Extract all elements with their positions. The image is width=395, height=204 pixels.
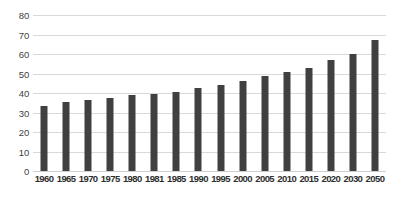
- bar: [217, 85, 224, 171]
- y-axis-tick-label: 70: [19, 29, 29, 40]
- bar: [107, 98, 114, 171]
- bar: [283, 72, 290, 171]
- x-axis-tick-label: 1990: [187, 173, 209, 184]
- bar-slot: [143, 15, 165, 171]
- bar: [239, 81, 246, 171]
- bar-slot: [298, 15, 320, 171]
- bar: [261, 76, 268, 171]
- bar-slot: [77, 15, 99, 171]
- y-axis-tick-label: 60: [19, 49, 29, 60]
- bar: [41, 106, 48, 171]
- bar-slot: [342, 15, 364, 171]
- bar-slot: [320, 15, 342, 171]
- x-axis-tick-label: 2000: [232, 173, 254, 184]
- x-axis-tick-label: 2050: [364, 173, 386, 184]
- x-axis-tick-label: 1980: [121, 173, 143, 184]
- gridline-0: [33, 171, 386, 172]
- bar: [305, 68, 312, 171]
- x-axis: 1960196519701975198019811985199019952000…: [33, 173, 386, 191]
- y-axis-tick-label: 80: [19, 10, 29, 21]
- bar: [371, 40, 378, 171]
- bar-slot: [254, 15, 276, 171]
- bar: [63, 102, 70, 171]
- x-axis-tick-label: 1995: [210, 173, 232, 184]
- bar-slot: [364, 15, 386, 171]
- bar: [173, 92, 180, 171]
- bar-slot: [55, 15, 77, 171]
- bar: [129, 95, 136, 171]
- bar-slot: [33, 15, 55, 171]
- x-axis-tick-label: 1970: [77, 173, 99, 184]
- x-axis-tick-label: 2010: [276, 173, 298, 184]
- x-axis-tick-label: 1975: [99, 173, 121, 184]
- y-axis-tick-label: 50: [19, 68, 29, 79]
- bar-chart: 01020304050607080 1960196519701975198019…: [0, 0, 395, 204]
- bar: [85, 100, 92, 171]
- y-axis-tick-label: 40: [19, 88, 29, 99]
- bar-slot: [121, 15, 143, 171]
- y-axis-tick-label: 10: [19, 146, 29, 157]
- x-axis-tick-label: 2005: [254, 173, 276, 184]
- bar: [327, 60, 334, 171]
- bar-slot: [99, 15, 121, 171]
- x-axis-tick-label: 2020: [320, 173, 342, 184]
- bar-slot: [210, 15, 232, 171]
- y-axis-tick-label: 0: [24, 166, 29, 177]
- x-axis-tick-label: 1960: [33, 173, 55, 184]
- plot-area: [33, 15, 386, 171]
- y-axis-tick-label: 20: [19, 127, 29, 138]
- y-axis: 01020304050607080: [0, 15, 29, 171]
- bar-slot: [276, 15, 298, 171]
- x-axis-tick-label: 1985: [165, 173, 187, 184]
- x-axis-tick-label: 2030: [342, 173, 364, 184]
- bar: [151, 94, 158, 171]
- x-axis-tick-label: 1981: [143, 173, 165, 184]
- y-axis-tick-label: 30: [19, 107, 29, 118]
- x-axis-tick-label: 2015: [298, 173, 320, 184]
- bar: [195, 88, 202, 171]
- bar-slot: [165, 15, 187, 171]
- x-axis-tick-label: 1965: [55, 173, 77, 184]
- bar: [349, 54, 356, 171]
- bar-series: [33, 15, 386, 171]
- bar-slot: [187, 15, 209, 171]
- bar-slot: [232, 15, 254, 171]
